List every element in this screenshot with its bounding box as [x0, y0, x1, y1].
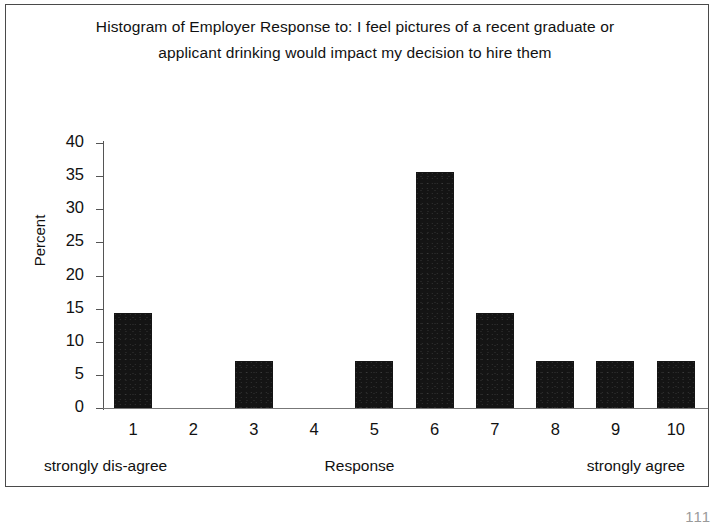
y-axis-tick: 20	[96, 276, 103, 277]
y-axis-tick-label: 40	[44, 132, 84, 151]
y-axis-tick-label: 10	[44, 331, 84, 350]
x-axis-tick-label: 6	[405, 420, 465, 439]
bar-7[interactable]	[476, 313, 514, 408]
x-axis-tick-label: 1	[103, 420, 163, 439]
x-axis-line	[103, 408, 708, 409]
x-axis-tick-label: 7	[465, 420, 525, 439]
bar-1[interactable]	[114, 313, 152, 408]
x-axis-tick-label: 9	[585, 420, 645, 439]
y-axis-tick: 40	[96, 143, 103, 144]
y-axis-tick: 0	[96, 408, 103, 409]
x-axis-tick-label: 8	[525, 420, 585, 439]
page-number-artifact: 111	[685, 508, 711, 525]
x-axis-tick-label: 10	[646, 420, 706, 439]
bar-slot	[224, 143, 284, 408]
bar-5[interactable]	[355, 361, 393, 408]
plot-area: 0510152025303540	[103, 143, 706, 408]
bar-slot	[284, 143, 344, 408]
y-axis-tick-label: 30	[44, 198, 84, 217]
bar-slot	[103, 143, 163, 408]
x-axis-tick-label: 2	[163, 420, 223, 439]
bar-slot	[405, 143, 465, 408]
bar-8[interactable]	[536, 361, 574, 408]
scale-caption-high: strongly agree	[587, 457, 685, 475]
bar-slot	[646, 143, 706, 408]
x-axis-tick-label: 4	[284, 420, 344, 439]
bar-9[interactable]	[596, 361, 634, 408]
x-axis-tick-label: 3	[224, 420, 284, 439]
y-axis-tick: 15	[96, 309, 103, 310]
y-axis-tick-label: 25	[44, 231, 84, 250]
y-axis-tick-label: 0	[44, 397, 84, 416]
y-axis-tick: 5	[96, 375, 103, 376]
chart-title: Histogram of Employer Response to: I fee…	[70, 14, 640, 66]
bar-slot	[344, 143, 404, 408]
bar-slot	[465, 143, 525, 408]
x-axis-tick-label: 5	[344, 420, 404, 439]
bar-3[interactable]	[235, 361, 273, 408]
y-axis-tick: 30	[96, 209, 103, 210]
y-axis-tick: 10	[96, 342, 103, 343]
bar-10[interactable]	[657, 361, 695, 408]
y-axis-tick-label: 5	[44, 364, 84, 383]
bar-6[interactable]	[416, 172, 454, 409]
y-axis-tick-label: 15	[44, 298, 84, 317]
bar-slot	[163, 143, 223, 408]
y-axis-tick: 25	[96, 242, 103, 243]
y-axis-tick: 35	[96, 176, 103, 177]
y-axis-tick-label: 20	[44, 265, 84, 284]
bar-slot	[525, 143, 585, 408]
y-axis-tick-label: 35	[44, 165, 84, 184]
bar-slot	[585, 143, 645, 408]
